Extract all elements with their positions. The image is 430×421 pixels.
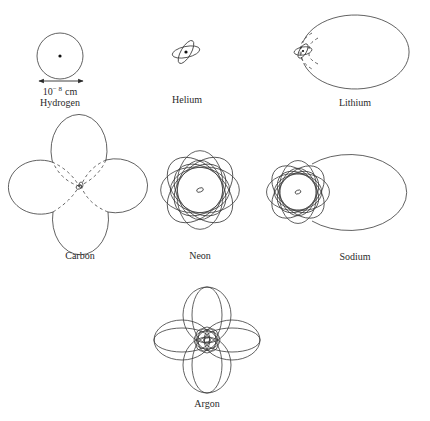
carbon-lobe-bottom xyxy=(53,212,109,255)
lithium-label: Lithium xyxy=(339,97,371,108)
argon-label: Argon xyxy=(194,398,219,409)
hydrogen-atom: 10− 8cm Hydrogen xyxy=(37,33,83,108)
lithium-outer-orbit xyxy=(304,15,409,89)
helium-atom: Helium xyxy=(171,38,202,105)
neon-atom: Neon xyxy=(156,146,244,261)
scale-label: 10− 8cm xyxy=(43,85,78,97)
lithium-atom: Lithium xyxy=(293,15,409,108)
neon-orbit-7 xyxy=(163,146,244,227)
carbon-lobe-right-hidden xyxy=(81,160,108,212)
helium-nucleus xyxy=(184,50,187,53)
neon-orbit-6 xyxy=(156,146,237,227)
sodium-orbits xyxy=(263,157,334,228)
carbon-lobe-top-hidden xyxy=(52,160,106,186)
carbon-lobe-top xyxy=(51,114,107,160)
neon-orbit-8 xyxy=(156,153,237,234)
hydrogen-nucleus xyxy=(58,54,61,57)
lithium-nucleus xyxy=(302,50,304,52)
carbon-lobe-left-hidden xyxy=(52,162,79,212)
neon-label: Neon xyxy=(189,250,211,261)
sodium-atom: Sodium xyxy=(263,155,407,263)
lithium-dashed-inner-2 xyxy=(309,38,318,64)
neon-orbit-5 xyxy=(163,153,244,234)
neon-core xyxy=(196,187,204,193)
carbon-lobe-left xyxy=(8,160,53,214)
carbon-atom: Carbon xyxy=(8,114,147,261)
helium-label: Helium xyxy=(172,94,202,105)
argon-atom: Argon xyxy=(154,287,260,409)
carbon-label: Carbon xyxy=(65,250,94,261)
atom-models-diagram: 10− 8cm Hydrogen Helium Lithium Carbon xyxy=(0,0,430,421)
sodium-label: Sodium xyxy=(339,251,370,262)
argon-core-orbit-4 xyxy=(191,324,222,355)
sodium-core xyxy=(295,189,302,194)
hydrogen-label: Hydrogen xyxy=(40,97,80,108)
carbon-lobe-right xyxy=(106,159,148,213)
argon-orbits xyxy=(154,287,260,393)
argon-lobe-right-a xyxy=(204,320,260,360)
sodium-outer-orbit xyxy=(312,155,407,231)
argon-lobe-left-a xyxy=(154,320,210,360)
lithium-dashed-inner xyxy=(300,33,312,69)
neon-orbits xyxy=(156,146,244,234)
